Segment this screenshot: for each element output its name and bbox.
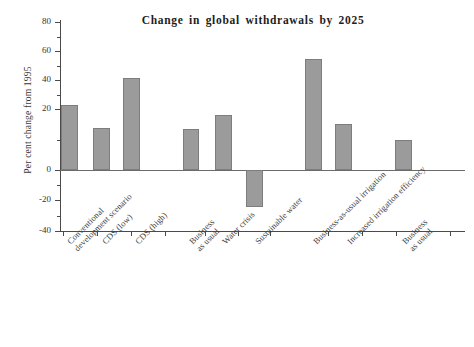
y-tick-minor-neg10: [57, 185, 60, 186]
y-tick-20: 20: [55, 109, 60, 110]
chart-figure: Change in global withdrawals by 2025 Per…: [0, 0, 474, 347]
y-tick-minor-neg30: [57, 216, 60, 217]
plot-area: 80 60 40 20 0 -20 -40: [60, 20, 465, 232]
y-tick-minor-30: [57, 95, 60, 96]
y-tick-0: 0: [55, 170, 60, 171]
x-tick-0: [63, 232, 64, 236]
x-tick-3: [165, 232, 166, 236]
x-tick-5: [238, 232, 239, 236]
y-tick-label-80: 80: [42, 16, 51, 26]
y-tick-neg20: -20: [55, 200, 60, 201]
bar-water-crisis: [215, 115, 232, 171]
bar-cds-high: [123, 78, 140, 171]
y-tick-label-0: 0: [47, 164, 52, 174]
y-tick-minor-10: [57, 140, 60, 141]
x-tick-9: [396, 232, 397, 236]
bar-business-as-usual-2: [395, 140, 412, 170]
y-tick-minor-50: [57, 66, 60, 67]
y-tick-60: 60: [55, 51, 60, 52]
x-tick-10: [450, 232, 451, 236]
x-tick-2: [131, 232, 132, 236]
y-tick-minor-70: [57, 37, 60, 38]
bar-business-as-usual-irrigation: [305, 59, 322, 170]
y-tick-neg40: -40: [55, 231, 60, 232]
x-tick-4: [205, 232, 206, 236]
bar-cds-low: [93, 128, 110, 171]
bar-conventional-development-scenario: [61, 105, 78, 170]
y-tick-label-60: 60: [42, 45, 51, 55]
bar-sustainable-water: [246, 170, 263, 207]
y-tick-40: 40: [55, 80, 60, 81]
y-tick-label-20: 20: [42, 103, 51, 113]
x-tick-8: [362, 232, 363, 236]
x-tick-6: [270, 232, 271, 236]
y-tick-label-neg40: -40: [39, 225, 51, 235]
y-tick-label-neg20: -20: [39, 194, 51, 204]
bar-business-as-usual-1: [183, 129, 199, 170]
x-axis-line: [60, 231, 465, 232]
y-axis-title: Per cent change from 1995: [23, 45, 33, 195]
x-tick-1: [97, 232, 98, 236]
x-tick-7: [328, 232, 329, 236]
y-tick-label-40: 40: [42, 74, 51, 84]
y-tick-80: 80: [55, 22, 60, 23]
bar-increased-irrigation-efficiency: [335, 124, 352, 170]
